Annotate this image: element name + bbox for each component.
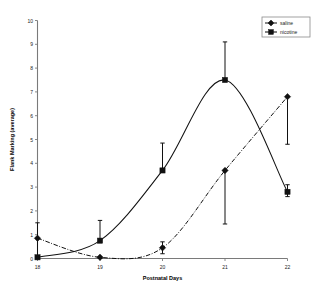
data-point-nicotine-21[interactable]	[222, 77, 227, 82]
legend-label-nicotine: nicotine	[280, 29, 297, 35]
y-tick-label-6: 6	[30, 113, 33, 119]
y-tick-label-5: 5	[30, 137, 33, 143]
legend-marker-nicotine	[269, 30, 274, 35]
data-point-saline-20[interactable]	[159, 245, 165, 251]
data-point-nicotine-22[interactable]	[285, 189, 290, 194]
y-tick-label-1: 1	[30, 232, 33, 238]
x-tick-label-18: 18	[35, 264, 41, 270]
legend-label-saline: saline	[280, 20, 293, 26]
y-tick-label-0: 0	[30, 256, 33, 262]
data-point-saline-18[interactable]	[34, 235, 40, 241]
x-tick-label-20: 20	[160, 264, 166, 270]
data-point-saline-19[interactable]	[97, 254, 103, 260]
y-tick-label-3: 3	[30, 184, 33, 190]
data-point-saline-22[interactable]	[284, 93, 290, 99]
flank-marking-line-chart: 0123456789101819202122Postnatal DaysFlan…	[0, 0, 330, 295]
x-tick-label-19: 19	[97, 264, 103, 270]
data-point-nicotine-19[interactable]	[97, 238, 102, 243]
data-point-nicotine-18[interactable]	[35, 255, 40, 260]
x-axis-title: Postnatal Days	[143, 275, 182, 281]
series-line-saline	[38, 97, 288, 259]
y-tick-label-2: 2	[30, 208, 33, 214]
chart-figure: 0123456789101819202122Postnatal DaysFlan…	[0, 0, 330, 295]
y-tick-label-8: 8	[30, 65, 33, 71]
data-point-nicotine-20[interactable]	[160, 168, 165, 173]
x-tick-label-21: 21	[222, 264, 228, 270]
y-tick-label-10: 10	[27, 18, 33, 24]
y-tick-label-7: 7	[30, 89, 33, 95]
y-axis-title: Flank Marking (average)	[9, 108, 15, 171]
y-tick-label-9: 9	[30, 41, 33, 47]
y-tick-label-4: 4	[30, 160, 33, 166]
x-tick-label-22: 22	[285, 264, 291, 270]
